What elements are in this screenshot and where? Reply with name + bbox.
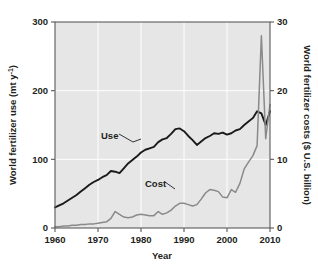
x-tick-label: 1990 xyxy=(173,234,194,245)
x-tick-label: 2010 xyxy=(259,234,280,245)
left-tick-label: 100 xyxy=(32,154,48,165)
right-axis-tick-labels: 0102030 xyxy=(277,16,288,233)
left-tick-label: 200 xyxy=(32,85,48,96)
series-label-cost: Cost xyxy=(145,178,167,189)
fertilizer-use-and-cost-chart: 0100200300 0102030 196019701980199020002… xyxy=(0,0,318,267)
bottom-axis-tickmarks xyxy=(55,228,270,232)
left-axis-title: World fertilizer use (mt y-1) xyxy=(7,65,19,185)
x-tick-label: 1970 xyxy=(87,234,108,245)
x-tick-label: 1960 xyxy=(44,234,65,245)
x-tick-label: 1980 xyxy=(130,234,151,245)
right-tick-label: 30 xyxy=(277,16,288,27)
right-tick-label: 0 xyxy=(277,222,282,233)
left-tick-label: 0 xyxy=(43,222,48,233)
left-axis-tick-labels: 0100200300 xyxy=(32,16,48,233)
x-axis-title: Year xyxy=(152,250,172,261)
x-tick-label: 2000 xyxy=(216,234,237,245)
right-tick-label: 20 xyxy=(277,85,288,96)
plot-area-background xyxy=(55,22,270,228)
right-axis-title: World fertilizer costs ($ U.S. billion) xyxy=(302,45,313,205)
right-axis-tickmarks xyxy=(270,22,274,228)
left-axis-tickmarks xyxy=(51,22,55,228)
right-tick-label: 10 xyxy=(277,154,288,165)
series-label-use: Use xyxy=(101,130,118,141)
left-tick-label: 300 xyxy=(32,16,48,27)
bottom-axis-tick-labels: 196019701980199020002010 xyxy=(44,234,280,245)
